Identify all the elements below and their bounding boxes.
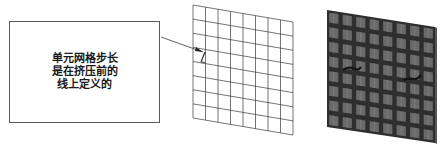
- diagram-canvas: 单元网格步长 是在挤压前的 线上定义的: [0, 0, 442, 149]
- leader-arrow: [161, 37, 203, 52]
- highlighted-edge: [201, 52, 205, 63]
- wire-mesh-grid: [193, 5, 293, 135]
- mesh-illustrations: [0, 0, 442, 149]
